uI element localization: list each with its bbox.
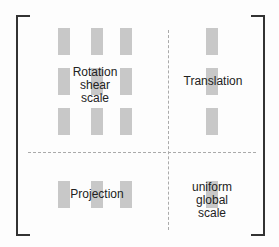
translation-label: Translation	[180, 75, 246, 88]
horizontal-divider	[28, 152, 256, 153]
rotation-label: Rotation shear scale	[70, 66, 120, 105]
projection-label: Projection	[64, 188, 130, 201]
uniform-scale-label: uniform global scale	[186, 181, 238, 220]
vertical-divider	[168, 30, 169, 230]
